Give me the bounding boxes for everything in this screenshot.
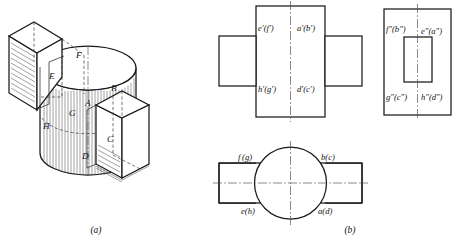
front-label-bottom-left: h′(g′) <box>258 84 276 94</box>
side-label-bottom-right: h″(d″) <box>421 92 443 102</box>
label-G: G <box>69 108 76 118</box>
front-view-right-wing <box>325 36 362 86</box>
label-E: E <box>48 71 55 81</box>
side-view-inner-rect <box>404 37 432 82</box>
label-C: C <box>107 134 114 144</box>
top-view: f (g) b(c) e(h) a(d) <box>213 141 368 225</box>
front-label-top-left: e′(f′) <box>258 23 274 33</box>
technical-drawing-figure: F E B A G H C D (a) e′(f′) a′(b′) h′(g′) <box>0 0 461 248</box>
caption-a: (a) <box>90 225 101 236</box>
top-label-left-upper: f (g) <box>238 152 252 162</box>
front-label-top-right: a′(b′) <box>297 23 315 33</box>
top-label-right-lower: a(d) <box>318 206 332 216</box>
caption-b: (b) <box>344 225 355 236</box>
label-B: B <box>111 83 117 93</box>
right-slot-block <box>87 91 149 182</box>
front-view: e′(f′) a′(b′) h′(g′) d′(c′) <box>219 1 362 122</box>
label-D: D <box>81 151 89 161</box>
label-F: F <box>75 50 82 60</box>
top-label-right-upper: b(c) <box>321 152 335 162</box>
label-A: A <box>84 98 91 108</box>
side-label-bottom-left: g″(c″) <box>386 92 407 102</box>
side-view: f″(b″) e″(a″) g″(c″) h″(d″) <box>384 4 451 120</box>
front-view-left-wing <box>219 36 256 86</box>
top-label-left-lower: e(h) <box>241 206 255 216</box>
front-label-bottom-right: d′(c′) <box>297 84 315 94</box>
right-slot-right-face <box>122 105 149 178</box>
isometric-view: F E B A G H C D (a) <box>9 22 149 236</box>
side-label-top-left: f″(b″) <box>386 24 406 34</box>
drawing-canvas: F E B A G H C D (a) e′(f′) a′(b′) h′(g′) <box>0 0 461 248</box>
side-label-top-right: e″(a″) <box>421 26 442 36</box>
